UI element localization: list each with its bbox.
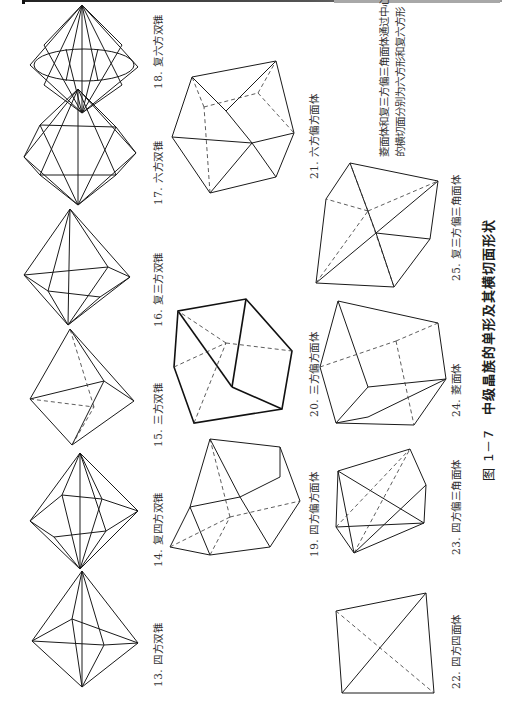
form-label-17: 17. 六方双锥 xyxy=(150,141,165,205)
form-label-19: 19. 四方偏方面体 xyxy=(306,472,321,557)
figure-caption: 图 1－7中级晶族的单形及其横切面形状 xyxy=(478,219,497,481)
form-label-23: 23. 四方偏三角面体 xyxy=(448,459,463,555)
form-label-18: 18. 复六方双锥 xyxy=(150,14,165,89)
crystal-form-13-tetragonal-bipyramid-drawing xyxy=(20,569,150,689)
crystal-form-21-hexagonal-trapezohedron-drawing xyxy=(166,57,296,197)
cross-section-note: 菱面体和复三方偏三角面体通过中心 的横切面分别为六方形和复六方形 xyxy=(376,0,408,157)
crystal-form-16-ditrigonal-bipyramid-drawing xyxy=(18,207,148,327)
form-label-22: 22. 四方四面体 xyxy=(448,614,463,689)
note-line-1: 菱面体和复三方偏三角面体通过中心 xyxy=(376,0,392,157)
form-label-16: 16. 复三方双锥 xyxy=(150,252,165,327)
form-label-14: 14. 复四方双锥 xyxy=(150,492,165,567)
form-label-24: 24. 菱面体 xyxy=(448,363,463,417)
figure-number: 图 1－7 xyxy=(481,429,496,481)
crystal-form-22-tetragonal-tetrahedron-drawing xyxy=(332,587,438,697)
form-label-15: 15. 三方双锥 xyxy=(150,383,165,447)
crystal-form-18-dihexagonal-bipyramid-drawing xyxy=(26,3,146,115)
crystal-form-25-ditrigonal-scalenohedron-drawing xyxy=(314,159,444,289)
form-label-25: 25. 复三方偏三角面体 xyxy=(448,175,463,281)
crystal-form-24-rhombohedron-drawing xyxy=(318,297,448,427)
crystal-form-19-tetragonal-trapezohedron-drawing xyxy=(170,437,300,557)
figure-page: 13. 四方双锥 14. 复四方双锥 xyxy=(0,0,506,717)
crystal-form-20-trigonal-trapezohedron-drawing xyxy=(172,297,298,427)
figure-title: 中级晶族的单形及其横切面形状 xyxy=(481,219,496,415)
crystal-form-14-ditetragonal-bipyramid-drawing xyxy=(20,451,150,571)
crystal-form-15-trigonal-bipyramid-drawing xyxy=(22,327,152,447)
crystal-form-23-tetragonal-scalenohedron-drawing xyxy=(334,447,430,557)
form-label-13: 13. 四方双锥 xyxy=(150,623,165,687)
note-line-2: 的横切面分别为六方形和复六方形 xyxy=(392,0,408,157)
